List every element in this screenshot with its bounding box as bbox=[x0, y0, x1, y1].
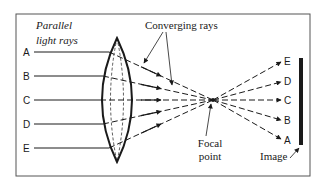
image-pointer-arrow-icon bbox=[290, 148, 299, 158]
ray-label-c: C bbox=[284, 95, 291, 106]
converging-ray-arrows bbox=[141, 67, 161, 133]
diverging-ray-b bbox=[213, 100, 281, 120]
ray-label-d: D bbox=[23, 119, 30, 130]
ray-label-e: E bbox=[284, 56, 291, 67]
outgoing-ray-labels: E D C B A bbox=[284, 56, 291, 146]
focal-pointer-arrow-icon bbox=[206, 104, 211, 136]
image-bar bbox=[299, 58, 303, 145]
incoming-ray-labels: A B C D E bbox=[23, 47, 30, 154]
diverging-ray-a bbox=[213, 100, 281, 139]
image-label: Image bbox=[260, 150, 288, 162]
svg-text:Parallel: Parallel bbox=[35, 19, 72, 31]
diverging-rays bbox=[213, 62, 281, 139]
diverging-ray-d bbox=[213, 82, 281, 100]
arrow-icon bbox=[141, 111, 161, 115]
ray-label-e: E bbox=[23, 143, 30, 154]
arrow-icon bbox=[141, 124, 161, 133]
svg-text:Focal: Focal bbox=[198, 137, 222, 149]
svg-text:point: point bbox=[199, 150, 222, 162]
focal-point-label: Focal point bbox=[198, 137, 222, 162]
pointer-arrow-icon bbox=[166, 32, 172, 85]
arrow-icon bbox=[141, 84, 161, 88]
ray-label-b: B bbox=[23, 71, 30, 82]
converging-rays-pointers bbox=[144, 32, 172, 85]
incoming-rays bbox=[34, 52, 109, 148]
diverging-ray-e bbox=[213, 62, 281, 100]
ray-label-a: A bbox=[23, 47, 30, 58]
arrow-icon bbox=[141, 67, 161, 76]
ray-label-a: A bbox=[284, 135, 291, 146]
converging-rays-label: Converging rays bbox=[145, 19, 218, 31]
ray-label-d: D bbox=[284, 76, 291, 87]
pointer-arrow-icon bbox=[144, 32, 163, 63]
svg-text:light rays: light rays bbox=[36, 34, 78, 46]
lens-diagram: A B C D E E D C B A P bbox=[0, 0, 328, 184]
ray-label-b: B bbox=[284, 115, 291, 126]
ray-label-c: C bbox=[23, 95, 30, 106]
parallel-rays-label: Parallel light rays bbox=[35, 19, 78, 46]
